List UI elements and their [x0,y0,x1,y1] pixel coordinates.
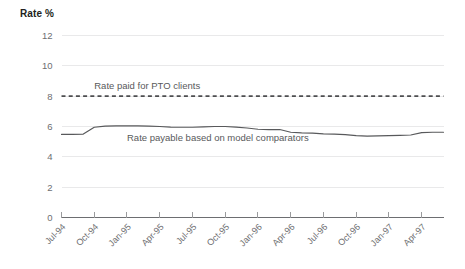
x-axis-tick-label: Jan-95 [106,222,133,249]
x-axis-tick-label: Oct-95 [205,222,231,248]
x-axis-tick-label: Oct-96 [336,222,362,248]
y-axis-tick-label: 6 [47,121,52,132]
x-axis-tick-label: Apr-96 [270,222,296,248]
x-axis-tick-labels: Jul-94Oct-94Jan-95Apr-95Jul-95Oct-95Jan-… [43,222,428,249]
chart-plot-area: 024681012 Jul-94Oct-94Jan-95Apr-95Jul-95… [0,0,465,269]
y-axis-tick-label: 12 [42,30,53,41]
x-axis-tick-marks [62,212,422,218]
y-axis-tick-label: 4 [47,151,52,162]
x-axis-tick-label: Oct-94 [74,222,100,248]
x-axis-tick-label: Apr-95 [139,222,165,248]
x-axis-tick-label: Apr-97 [401,222,427,248]
x-axis-tick-label: Jul-95 [174,222,198,246]
series-annotation-2: Rate payable based on model comparators [127,132,309,143]
gridlines-group [62,36,444,188]
rate-chart: Rate % 024681012 Jul-94Oct-94Jan-95Apr-9… [0,0,465,269]
y-axis-tick-labels: 024681012 [42,30,53,223]
x-axis-tick-label: Jan-96 [237,222,264,249]
y-axis-tick-label: 10 [42,60,53,71]
y-axis-tick-label: 8 [47,91,52,102]
x-axis-tick-label: Jan-97 [368,222,395,249]
axis-lines-group [62,212,444,218]
x-axis-tick-label: Jul-94 [43,222,67,246]
series-annotation-1: Rate paid for PTO clients [94,80,200,91]
x-axis-tick-label: Jul-96 [305,222,329,246]
y-axis-tick-label: 0 [47,212,52,223]
y-axis-tick-label: 2 [47,182,52,193]
series-annotations: Rate paid for PTO clientsRate payable ba… [94,80,309,143]
series-group [62,96,444,136]
